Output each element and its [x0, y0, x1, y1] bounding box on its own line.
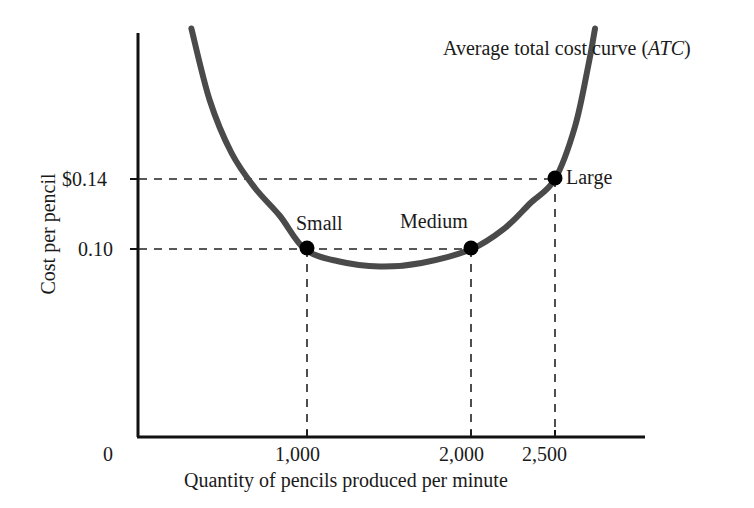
data-point-small: [300, 241, 315, 256]
y-axis-tick-label-010: 0.10: [78, 239, 113, 259]
atc-curve-line: [191, 29, 595, 267]
chart-figure: Average total cost curve (ATC) $0.14 0.1…: [0, 0, 754, 508]
data-point-large: [548, 171, 563, 186]
x-axis-tick-label-2500: 2,500: [522, 444, 567, 464]
x-axis-tick-label-0: 0: [103, 444, 113, 464]
y-axis-title: Cost per pencil: [37, 173, 59, 294]
data-point-label-large: Large: [566, 167, 612, 187]
chart-plot-area: [0, 0, 754, 508]
y-axis-tick-label-014: $0.14: [62, 169, 107, 189]
chart-title-paren-open: (: [636, 37, 648, 59]
chart-title-text: Average total cost curve: [443, 37, 636, 59]
data-point-medium: [464, 241, 479, 256]
chart-title-paren-close: ): [684, 37, 691, 59]
chart-title-abbrev: ATC: [648, 37, 684, 59]
chart-title: Average total cost curve (ATC): [443, 38, 691, 58]
x-axis-tick-label-2000: 2,000: [439, 444, 484, 464]
x-axis-title: Quantity of pencils produced per minute: [184, 470, 508, 490]
data-point-label-small: Small: [296, 213, 343, 233]
y-axis-title-container: Cost per pencil: [38, 134, 66, 334]
data-point-label-medium: Medium: [400, 211, 468, 231]
x-axis-tick-label-1000: 1,000: [275, 444, 320, 464]
